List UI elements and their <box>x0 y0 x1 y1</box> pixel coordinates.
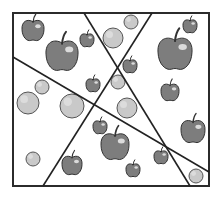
ball-icon <box>117 98 137 118</box>
diagram-svg <box>0 0 222 200</box>
apple-icon <box>80 30 94 47</box>
apple-icon <box>123 56 137 73</box>
apple-icon <box>86 75 100 92</box>
apple-icon <box>161 79 179 101</box>
apple-icon <box>181 114 205 143</box>
apple-icon <box>158 28 192 69</box>
diagram-canvas <box>0 0 222 200</box>
ball-icon <box>26 152 40 166</box>
ball-icon <box>60 94 84 118</box>
apple-icon <box>183 16 197 33</box>
apple-icon <box>46 32 78 71</box>
apple-icon <box>22 14 44 41</box>
apple-icon <box>62 151 82 175</box>
ball-icon <box>124 15 138 29</box>
line-b <box>43 13 152 186</box>
apple-icon <box>154 147 168 164</box>
ball-icon <box>189 169 203 183</box>
apple-icon <box>93 117 107 134</box>
ball-icon <box>35 80 49 94</box>
objects-layer <box>17 14 205 183</box>
apple-icon <box>126 160 140 177</box>
ball-icon <box>17 92 39 114</box>
ball-icon <box>103 28 123 48</box>
